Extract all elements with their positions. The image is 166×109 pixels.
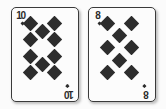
- diamond-pip: [25, 67, 36, 78]
- playing-card-ten-of-diamonds[interactable]: 10 10: [11, 7, 79, 102]
- diamond-pip: [126, 67, 137, 78]
- diamond-pip: [114, 30, 125, 41]
- diamond-pip: [102, 67, 113, 78]
- diamond-pip: [25, 34, 36, 45]
- diamond-pip: [37, 59, 48, 70]
- diamond-pip: [102, 42, 113, 53]
- diamond-pip: [49, 67, 60, 78]
- diamond-pip: [126, 42, 137, 53]
- diamond-pip: [102, 18, 113, 29]
- playing-card-eight-of-diamonds[interactable]: 8 8: [88, 7, 156, 102]
- diamond-pip: [25, 51, 36, 62]
- diamond-pip: [25, 18, 36, 29]
- pip-field: [99, 17, 145, 92]
- diamond-pip: [49, 51, 60, 62]
- pip-field: [22, 17, 68, 92]
- diamond-pip: [126, 18, 137, 29]
- diamond-pip: [49, 18, 60, 29]
- diamond-pip: [37, 26, 48, 37]
- playing-cards-scene: 10 10 8 8: [0, 0, 166, 109]
- diamond-pip: [114, 55, 125, 66]
- diamond-pip: [49, 34, 60, 45]
